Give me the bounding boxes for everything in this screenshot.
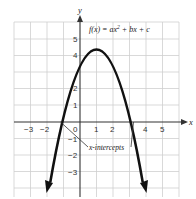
svg-text:−3: −3 — [68, 168, 78, 177]
svg-text:−2: −2 — [40, 125, 50, 134]
svg-text:1: 1 — [73, 101, 78, 110]
x-intercepts-label: x-intercepts — [88, 143, 124, 152]
x-axis-label: x — [188, 117, 193, 127]
parabola-graph: x y −3 −2 0 1 2 4 5 5 4 2 1 −1 −2 −3 x-i… — [0, 0, 196, 199]
y-axis-label: y — [77, 5, 82, 15]
right-arrow-icon — [140, 180, 148, 193]
x-axis-arrow-icon — [181, 119, 188, 125]
svg-text:5: 5 — [160, 125, 165, 134]
y-tick-labels: 5 4 2 1 −1 −2 −3 — [68, 35, 78, 177]
axes — [14, 19, 184, 197]
left-arrow-icon — [45, 180, 53, 193]
function-label: f(x) = ax2 + bx + c — [89, 24, 150, 34]
svg-text:2: 2 — [73, 84, 78, 93]
x-tick-labels: −3 −2 0 1 2 4 5 — [24, 125, 165, 134]
svg-text:−2: −2 — [68, 151, 78, 160]
svg-text:0: 0 — [73, 125, 78, 134]
y-axis-arrow-icon — [77, 15, 83, 22]
svg-text:2: 2 — [110, 125, 115, 134]
svg-text:5: 5 — [73, 35, 78, 44]
svg-text:4: 4 — [143, 125, 148, 134]
grid — [14, 22, 179, 197]
svg-text:1: 1 — [94, 125, 99, 134]
svg-text:−3: −3 — [24, 125, 34, 134]
svg-text:4: 4 — [73, 51, 78, 60]
